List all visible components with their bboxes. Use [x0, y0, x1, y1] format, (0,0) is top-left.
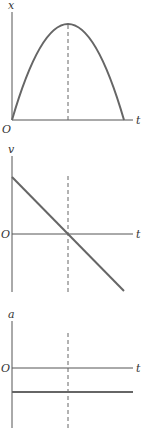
- x-axis-label-t: t: [136, 362, 141, 375]
- origin-label: O: [1, 362, 10, 375]
- velocity-time-graph: v t O: [1, 143, 141, 293]
- origin-label: O: [1, 228, 10, 241]
- y-axis-label-a: a: [8, 308, 15, 321]
- y-axis-label-x: x: [8, 0, 15, 12]
- y-axis-label-v: v: [8, 143, 15, 156]
- position-time-graph: x t O: [2, 0, 141, 136]
- x-axis-label-t: t: [136, 114, 141, 127]
- cutoff-caption: [0, 431, 144, 438]
- kinematics-graphs: x t O v t O a t O: [0, 0, 144, 438]
- origin-label: O: [2, 123, 11, 136]
- x-axis-label-t: t: [136, 228, 141, 241]
- acceleration-time-graph: a t O: [1, 308, 141, 428]
